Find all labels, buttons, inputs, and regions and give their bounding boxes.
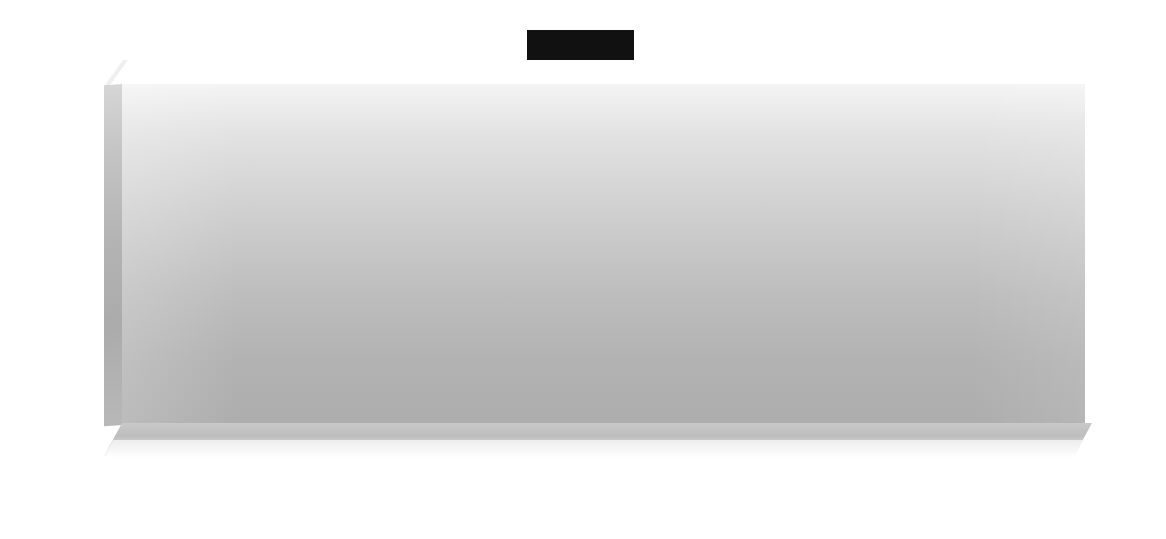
axis-floor-front: [104, 440, 1092, 458]
axis-wall-top-cap: [104, 60, 128, 86]
chart-title-badge: [527, 30, 634, 60]
axis-left-wall: [104, 84, 123, 426]
data-series-mais: [122, 84, 1085, 425]
chart-figure: [0, 0, 1166, 539]
